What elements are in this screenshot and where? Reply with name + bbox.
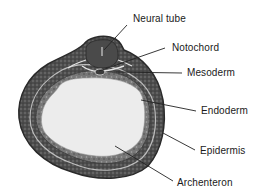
label-mesoderm: Mesoderm bbox=[187, 67, 235, 78]
embryo-cross-section-illustration bbox=[0, 0, 261, 195]
label-notochord: Notochord bbox=[172, 42, 219, 53]
label-epidermis: Epidermis bbox=[200, 145, 245, 156]
label-neural-tube: Neural tube bbox=[133, 13, 186, 24]
label-endoderm: Endoderm bbox=[201, 105, 248, 116]
leader-line-epidermis bbox=[163, 133, 195, 150]
label-archenteron: Archenteron bbox=[177, 177, 233, 188]
embryo-diagram: Neural tube Notochord Mesoderm Endoderm … bbox=[0, 0, 261, 195]
